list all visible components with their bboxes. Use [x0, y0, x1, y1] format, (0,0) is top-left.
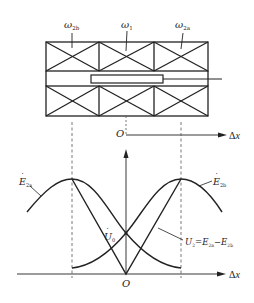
u2-leader — [158, 228, 183, 240]
curve-u2 — [72, 179, 181, 274]
label-w2a: ω2a — [175, 19, 191, 31]
x-axis-arrow-icon — [217, 272, 226, 277]
coil-labels: ω2b ω1 ω2a — [64, 19, 191, 31]
e2b-dot: · — [216, 170, 218, 178]
label-u2: U2=E2a−E2b — [185, 237, 233, 248]
lvdt-diagram: ω2b ω1 ω2a O Δx Δx O E2a · E2b · U0 · U2… — [0, 0, 254, 303]
curve-e2b — [72, 179, 222, 268]
e2a-dot: · — [22, 170, 24, 178]
label-w2b: ω2b — [64, 19, 80, 31]
u0-point — [124, 231, 127, 234]
label-e2b: E2b — [212, 176, 226, 188]
e2b-leader — [199, 181, 212, 186]
label-e2a: E2a — [18, 176, 32, 188]
y-axis-arrow-icon — [124, 149, 129, 158]
label-w1: ω1 — [121, 19, 133, 31]
u0-dot: · — [107, 225, 109, 233]
top-axis-arrow-icon — [218, 133, 227, 138]
curves — [27, 179, 222, 274]
iron-core — [91, 75, 163, 83]
top-axis-label: Δx — [229, 130, 240, 141]
top-origin-label: O — [116, 128, 124, 139]
origin-label: O — [122, 278, 130, 289]
x-axis-label: Δx — [229, 269, 240, 280]
